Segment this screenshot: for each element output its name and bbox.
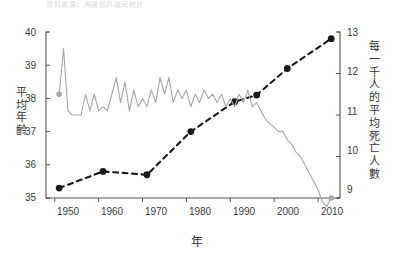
data-point-marker: [144, 171, 151, 178]
data-point-marker: [56, 91, 62, 97]
chart-figure: 資料來源：內政部戶政司統計 平 均 年 齡 每 一 千 人 的 平 均 死 亡 …: [0, 0, 394, 261]
y-axis-left-spine: [46, 32, 49, 198]
data-point-marker: [284, 65, 291, 72]
data-point-marker: [328, 195, 334, 201]
data-series-layer: [56, 35, 335, 206]
data-point-marker: [100, 168, 107, 175]
plot-canvas: [0, 0, 394, 261]
data-point-marker: [56, 185, 63, 192]
data-point-marker: [187, 128, 194, 135]
data-point-marker: [253, 92, 260, 99]
data-point-marker: [328, 35, 335, 42]
axis-spines: [46, 32, 340, 198]
series-line-0: [59, 39, 331, 188]
series-line-1: [59, 49, 331, 207]
